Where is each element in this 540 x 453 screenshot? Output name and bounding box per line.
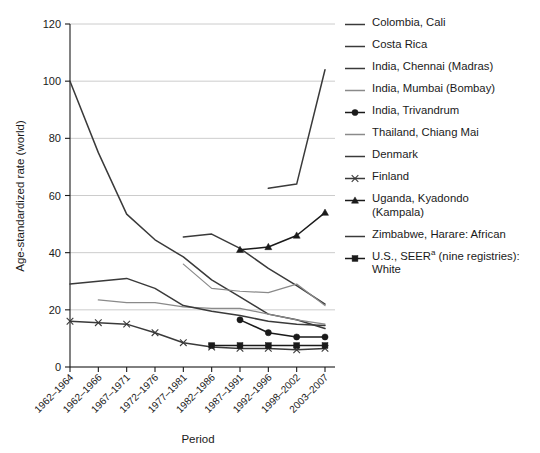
x-tick-labels: 1962–19641962–19661967–19711972–19761977… (32, 371, 330, 414)
series-layer (67, 70, 329, 353)
series-line (268, 70, 325, 189)
legend-item[interactable]: India, Chennai (Madras) (344, 60, 540, 74)
legend-item[interactable]: Costa Rica (344, 38, 540, 52)
y-tick-marks (65, 24, 70, 367)
series-line (70, 81, 325, 328)
series-line (237, 317, 328, 340)
legend-item[interactable]: Thailand, Chiang Mai (344, 126, 540, 140)
y-tick-label: 0 (55, 361, 61, 373)
y-tick-label: 20 (49, 304, 61, 316)
series-line (183, 264, 325, 305)
chart-legend: Colombia, CaliCosta RicaIndia, Chennai (… (344, 16, 540, 285)
y-tick-label: 120 (43, 18, 61, 30)
legend-item[interactable]: India, Trivandrum (344, 104, 540, 118)
legend-marker-icon (344, 193, 366, 206)
legend-item[interactable]: India, Mumbai (Bombay) (344, 82, 540, 96)
series-line (237, 209, 329, 252)
y-tick-label: 100 (43, 75, 61, 87)
legend-item[interactable]: Colombia, Cali (344, 16, 540, 30)
legend-marker-icon (344, 83, 366, 96)
legend-item[interactable]: Denmark (344, 148, 540, 162)
legend-marker-icon (344, 61, 366, 74)
legend-item-label: U.S., SEERa (nine registries):White (372, 250, 520, 277)
legend-item-label: Thailand, Chiang Mai (372, 126, 479, 140)
legend-item-label: Denmark (372, 148, 418, 162)
y-tick-label: 40 (49, 247, 61, 259)
x-tick-marks (70, 367, 325, 372)
legend-marker-icon (344, 127, 366, 140)
legend-item[interactable]: Uganda, Kyadondo (Kampala) (344, 192, 540, 219)
y-tick-label: 80 (49, 132, 61, 144)
legend-item-label: Uganda, Kyadondo (Kampala) (372, 192, 469, 219)
y-axis-title: Age-standardized rate (world) (14, 120, 26, 272)
legend-item-label: India, Mumbai (Bombay) (372, 82, 495, 96)
legend-item[interactable]: Finland (344, 170, 540, 184)
x-axis-title: Period (181, 433, 214, 445)
legend-marker-icon (344, 17, 366, 30)
legend-item-label: India, Chennai (Madras) (372, 60, 493, 74)
legend-item[interactable]: Zimbabwe, Harare: African (344, 228, 540, 242)
legend-marker-icon (344, 149, 366, 162)
chart-figure: 020406080100120 1962–19641962–19661967–1… (0, 0, 540, 453)
y-tick-label: 60 (49, 190, 61, 202)
legend-item[interactable]: U.S., SEERa (nine registries):White (344, 250, 540, 277)
legend-item-label: India, Trivandrum (372, 104, 459, 118)
legend-item-label: Colombia, Cali (372, 16, 445, 30)
legend-marker-icon (344, 171, 366, 184)
y-tick-labels: 020406080100120 (43, 18, 61, 373)
legend-marker-icon (344, 39, 366, 52)
legend-item-label: Zimbabwe, Harare: African (372, 228, 506, 242)
legend-marker-icon (344, 251, 366, 264)
gridlines (70, 24, 335, 367)
legend-marker-icon (344, 105, 366, 118)
legend-marker-icon (344, 229, 366, 242)
legend-item-label: Finland (372, 170, 409, 184)
legend-item-label: Costa Rica (372, 38, 427, 52)
series-line (183, 234, 325, 304)
